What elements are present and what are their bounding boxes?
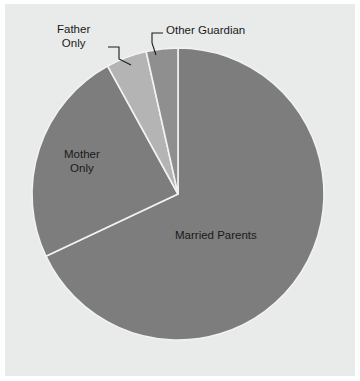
pie-label-mother-only: Mother Only: [64, 148, 100, 175]
pie-label-married-parents: Married Parents: [175, 229, 257, 243]
pie-label-mother-only-line2: Only: [64, 162, 100, 176]
pie-label-father-only-line1: Father: [57, 23, 90, 37]
pie-label-mother-only-line1: Mother: [64, 148, 100, 162]
pie-chart-svg: [0, 0, 360, 381]
pie-label-father-only-line2: Only: [57, 37, 90, 51]
pie-label-father-only: Father Only: [57, 23, 90, 50]
pie-chart-figure: Father Only Other Guardian Mother Only M…: [0, 0, 360, 381]
pie-label-other-guardian: Other Guardian: [166, 24, 245, 38]
